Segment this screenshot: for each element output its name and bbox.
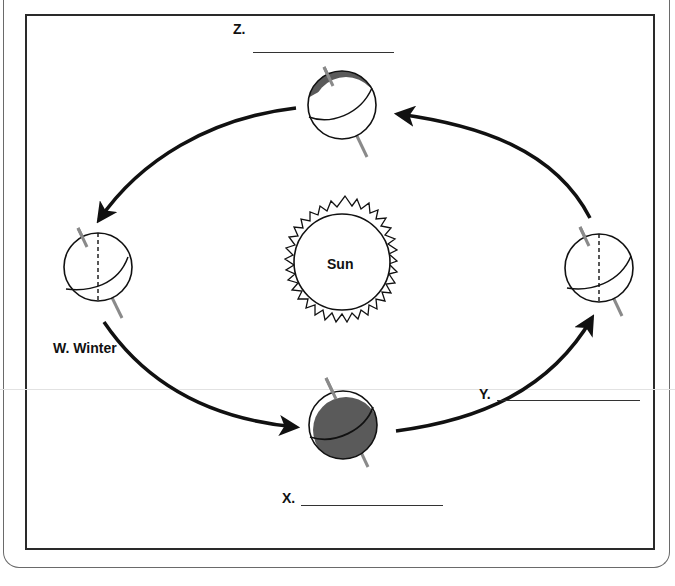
arrow-bottom-to-right — [396, 318, 592, 431]
answer-blank-z[interactable] — [253, 52, 394, 53]
label-y: Y. — [479, 386, 491, 402]
label-w: W. Winter — [53, 340, 117, 356]
label-x: X. — [282, 490, 295, 506]
earth-globe-top — [305, 60, 380, 157]
arrow-left-to-bottom — [104, 322, 296, 427]
arrow-top-to-left — [99, 108, 296, 220]
earth-globe-left — [64, 228, 132, 318]
answer-blank-x[interactable] — [301, 505, 443, 506]
answer-blank-y[interactable] — [497, 400, 640, 401]
earth-globe-bottom — [309, 378, 379, 467]
label-z: Z. — [233, 21, 245, 37]
orbit-diagram — [0, 0, 675, 586]
arrow-right-to-top — [398, 114, 590, 218]
sun-label: Sun — [327, 256, 353, 272]
earth-globe-right — [565, 227, 633, 316]
